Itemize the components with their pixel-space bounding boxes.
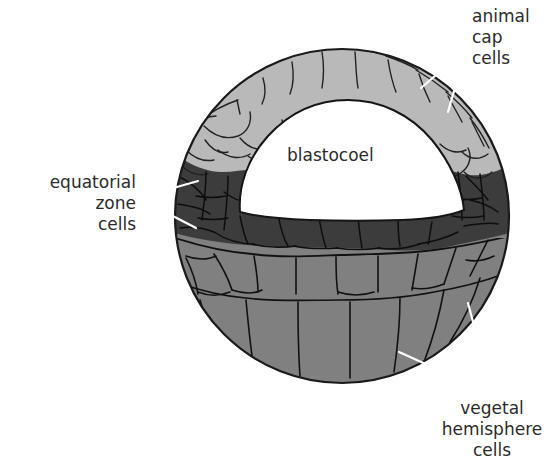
leader-vegetal-1 <box>399 352 492 394</box>
label-blastocoel: blastocoel <box>287 145 374 166</box>
label-animal-cap-cells: animal cap cells <box>472 6 530 69</box>
label-vegetal-hemisphere-cells: vegetal hemisphere cells <box>436 398 548 461</box>
embryo-body <box>170 30 514 383</box>
leader-vegetal-2 <box>468 303 492 394</box>
label-equatorial-zone-cells: equatorial zone cells <box>14 172 136 235</box>
